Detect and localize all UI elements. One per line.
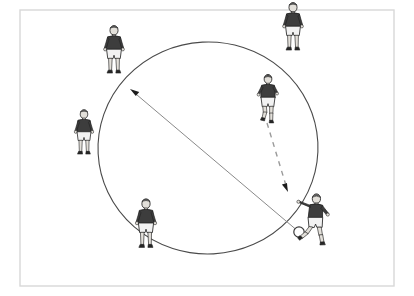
player-top-left-left-boot	[107, 70, 113, 73]
player-kicker-right-hand	[326, 213, 329, 216]
player-runner-inside-left-hand	[257, 93, 260, 96]
player-left-left-leg	[79, 140, 82, 151]
player-top-left-right-leg	[116, 58, 120, 70]
player-bottom-left-left-leg	[140, 232, 144, 244]
player-kicker-shirt	[308, 204, 322, 219]
player-top-left-right-boot	[116, 70, 121, 73]
player-runner-inside-shirt	[261, 84, 275, 98]
player-kicker-stand-boot	[320, 242, 325, 245]
player-runner-inside-right-boot	[269, 120, 274, 123]
player-runner-inside-right-hand	[276, 92, 279, 95]
player-top-left-left-leg	[109, 58, 113, 70]
player-left-right-leg	[86, 140, 89, 151]
player-bottom-left-shirt	[138, 209, 154, 224]
player-left-right-boot	[86, 151, 91, 154]
player-top-right-right-boot	[295, 47, 300, 50]
player-bottom-left-right-leg	[148, 232, 152, 244]
player-bottom-left-right-boot	[148, 244, 153, 247]
player-top-right-left-boot	[286, 47, 292, 50]
soccer-drill-diagram	[0, 0, 414, 296]
player-left-shirt	[77, 119, 91, 133]
player-top-right-right-leg	[295, 35, 299, 47]
player-top-right-shirt	[285, 13, 300, 28]
diagram-canvas	[0, 0, 414, 296]
player-kicker-left-hand	[297, 200, 300, 203]
player-runner-inside-right-thigh	[270, 106, 274, 114]
player-bottom-left-left-boot	[139, 244, 145, 247]
diagram-frame	[20, 10, 394, 286]
player-runner-inside-right-shin	[270, 113, 273, 121]
player-top-right-left-leg	[288, 35, 292, 47]
player-left-left-boot	[77, 151, 82, 154]
player-runner-inside-left-boot	[260, 118, 265, 121]
player-top-left-shirt	[106, 36, 121, 51]
